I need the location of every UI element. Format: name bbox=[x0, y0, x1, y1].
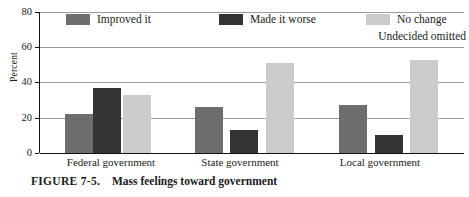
y-tick-label-40: 40 bbox=[8, 76, 32, 87]
figure-container: Percent 80 60 40 20 0 Federal government… bbox=[0, 0, 469, 197]
y-tick-label-0: 0 bbox=[8, 147, 32, 158]
bar-local-nochange bbox=[410, 60, 438, 153]
legend-item-worse: Made it worse bbox=[219, 13, 316, 25]
y-tick-label-80: 80 bbox=[8, 6, 32, 17]
y-tick-mark-0 bbox=[35, 153, 39, 154]
category-label-federal: Federal government bbox=[46, 156, 176, 168]
figure-caption-label: FIGURE 7-5. bbox=[31, 175, 100, 187]
y-tick-label-60: 60 bbox=[8, 41, 32, 52]
gridline-40 bbox=[40, 82, 464, 83]
legend-swatch-worse-icon bbox=[219, 14, 243, 25]
figure-caption: FIGURE 7-5. Mass feelings toward governm… bbox=[31, 175, 277, 187]
y-tick-label-20: 20 bbox=[8, 112, 32, 123]
legend-swatch-nochange-icon bbox=[366, 14, 390, 25]
bar-state-worse bbox=[230, 130, 258, 153]
legend-swatch-improved-icon bbox=[66, 14, 90, 25]
bar-local-worse bbox=[375, 135, 403, 153]
legend-label-nochange: No change bbox=[397, 13, 447, 25]
bar-local-improved bbox=[339, 105, 367, 153]
legend-label-worse: Made it worse bbox=[250, 13, 316, 25]
category-label-local: Local government bbox=[320, 156, 440, 168]
bar-federal-improved bbox=[65, 114, 93, 153]
bar-federal-nochange bbox=[123, 95, 151, 153]
category-label-state: State government bbox=[180, 156, 300, 168]
bar-federal-worse bbox=[93, 88, 121, 153]
figure-caption-text: Mass feelings toward government bbox=[112, 175, 277, 187]
legend: Improved it Made it worse No change Unde… bbox=[66, 13, 466, 45]
legend-note: Undecided omitted bbox=[378, 30, 466, 42]
legend-item-improved: Improved it bbox=[66, 13, 151, 25]
legend-label-improved: Improved it bbox=[97, 13, 151, 25]
gridline-60 bbox=[40, 47, 464, 48]
bar-state-improved bbox=[195, 107, 223, 153]
legend-item-nochange: No change bbox=[366, 13, 447, 25]
bar-state-nochange bbox=[266, 63, 294, 153]
